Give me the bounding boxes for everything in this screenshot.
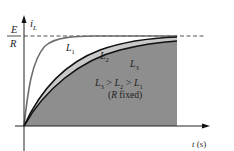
x-axis-label: t (s) xyxy=(192,139,206,149)
inductor-current-chart: iL E R L1 L2 L3 L3 > L2 > L1 (R fixed) t… xyxy=(0,0,234,151)
y-axis-arrow-icon xyxy=(22,15,27,23)
annotation-r-fixed: (R fixed) xyxy=(108,90,142,101)
y-axis-label: iL xyxy=(30,17,37,32)
x-axis-arrow-icon xyxy=(202,124,210,129)
asymptote-label-denominator: R xyxy=(9,38,17,49)
label-L1: L1 xyxy=(65,42,75,55)
asymptote-label-numerator: E xyxy=(10,24,18,35)
